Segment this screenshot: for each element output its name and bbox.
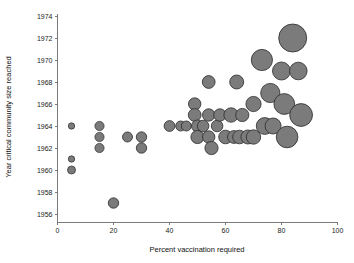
bubble-point (246, 96, 261, 111)
bubble-point (181, 121, 191, 131)
y-axis-tick-label: 1972 (37, 35, 53, 42)
bubble-point (68, 123, 74, 129)
y-axis-tick-label: 1970 (37, 57, 53, 64)
y-axis-title: Year critical community size reached (4, 56, 13, 177)
bubble-point (202, 76, 215, 89)
scatter-plot-svg: 1956195819601962196419661968197019721974… (0, 0, 354, 263)
bubble-series (68, 24, 313, 208)
bubble-point (95, 132, 104, 141)
bubble-point (211, 120, 223, 132)
bubble-point (197, 120, 209, 132)
y-axis-tick-label: 1956 (37, 211, 53, 218)
bubble-point (276, 126, 298, 148)
bubble-point (290, 104, 313, 127)
y-axis-tick-label: 1964 (37, 123, 53, 130)
y-axis-tick-label: 1974 (37, 13, 53, 20)
bubble-point (273, 62, 291, 80)
y-axis-tick-label: 1960 (37, 167, 53, 174)
x-axis-tick-label: 40 (166, 227, 174, 234)
bubble-point (95, 143, 104, 152)
x-axis-tick-label: 0 (56, 227, 60, 234)
bubble-point (230, 75, 244, 89)
bubble-point (290, 62, 308, 80)
bubble-point (164, 121, 175, 132)
x-axis-tick-label: 100 (332, 227, 344, 234)
bubble-point (136, 132, 146, 142)
bubble-point (236, 108, 249, 121)
y-axis-tick-label: 1962 (37, 145, 53, 152)
bubble-point (203, 109, 215, 121)
bubble-point (136, 143, 146, 153)
x-axis-tick-label: 60 (222, 227, 230, 234)
bubble-point (205, 141, 218, 154)
bubble-point (95, 121, 104, 130)
y-axis-tick-label: 1966 (37, 101, 53, 108)
bubble-point (108, 198, 118, 208)
bubble-point (68, 166, 76, 174)
bubble-point (279, 24, 307, 52)
x-axis-tick-label: 80 (278, 227, 286, 234)
y-axis-tick-label: 1958 (37, 189, 53, 196)
bubble-point (188, 109, 201, 122)
x-axis-title: Percent vaccination required (149, 245, 244, 254)
bubble-chart-figure: 1956195819601962196419661968197019721974… (0, 0, 354, 263)
y-axis-tick-label: 1968 (37, 79, 53, 86)
bubble-point (251, 49, 272, 70)
bubble-point (68, 156, 74, 162)
x-axis-tick-label: 20 (110, 227, 118, 234)
bubble-point (123, 132, 133, 142)
